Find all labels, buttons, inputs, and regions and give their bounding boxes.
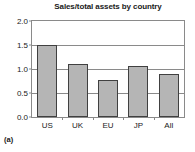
xtick-mark-4 [154,117,155,120]
xtick-label-all: All [164,121,173,130]
xtick-label-jp: JP [134,121,143,130]
ytick-label-0-0: 0.0 [17,113,28,122]
bar-slot-jp [123,21,153,117]
bar-jp[interactable] [128,66,148,117]
bars-layer [32,21,184,117]
chart-title: Sales/total assets by country [31,2,185,12]
bar-slot-uk [62,21,92,117]
bar-slot-us [32,21,62,117]
xtick-mark-1 [62,117,63,120]
bar-all[interactable] [159,74,179,117]
panel-caption: (a) [4,135,13,144]
ytick-label-1-0: 1.0 [17,65,28,74]
bar-eu[interactable] [98,80,118,117]
bar-slot-eu [93,21,123,117]
ytick-label-2-0: 2.0 [17,17,28,26]
xtick-label-eu: EU [102,121,113,130]
bar-us[interactable] [37,45,57,117]
xtick-label-us: US [42,121,53,130]
xtick-label-uk: UK [72,121,83,130]
ytick-label-1-5: 1.5 [17,41,28,50]
plot-area: 0.0 0.5 1.0 1.5 2.0 USUKEUJPAll [31,20,185,118]
xtick-mark-3 [123,117,124,120]
figure-panel: Sales/total assets by country 0.0 0.5 1.… [0,0,195,152]
ytick-label-0-5: 0.5 [17,89,28,98]
bar-uk[interactable] [68,64,88,117]
xtick-mark-2 [93,117,94,120]
bar-slot-all [154,21,184,117]
